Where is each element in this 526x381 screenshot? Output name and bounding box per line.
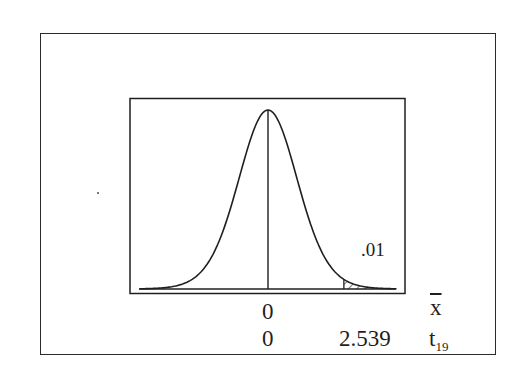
t-tick-zero: 0: [262, 327, 274, 350]
t-distribution-figure: .01 0 x 0 2.539 t19: [0, 0, 526, 381]
t-axis-label: t19: [429, 327, 448, 353]
t-tick-critical: 2.539: [339, 327, 391, 350]
xbar-tick-zero: 0: [262, 300, 274, 323]
tail-area-label: .01: [361, 240, 385, 259]
t-axis-subscript: 19: [435, 339, 448, 354]
xbar-axis-label: x: [430, 296, 442, 319]
